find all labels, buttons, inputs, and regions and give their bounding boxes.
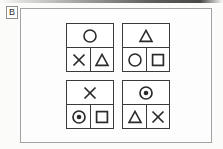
panel-top-right-bottom-cell-1 xyxy=(123,48,146,71)
x-icon xyxy=(82,85,98,101)
panel-letter-badge: B xyxy=(6,6,18,19)
stimulus-panel-grid xyxy=(66,23,170,129)
panel-bottom-left-bottom-row xyxy=(67,105,113,128)
concentric-circle-icon xyxy=(71,109,87,125)
panel-bottom-left-top-cell xyxy=(67,81,113,105)
panel-bottom-left-bottom-cell-2 xyxy=(90,105,113,128)
panel-top-left[interactable] xyxy=(66,23,114,72)
panel-top-right-bottom-row xyxy=(123,48,169,71)
panel-bottom-right[interactable] xyxy=(122,80,170,129)
square-icon xyxy=(94,109,110,125)
panel-top-left-top-cell xyxy=(67,24,113,48)
panel-top-left-bottom-cell-2 xyxy=(90,48,113,71)
square-icon xyxy=(150,52,166,68)
panel-letter-text: B xyxy=(9,8,15,17)
figure-panel-b: B xyxy=(0,0,223,149)
triangle-icon xyxy=(127,109,143,125)
panel-bottom-right-bottom-row xyxy=(123,105,169,128)
triangle-icon xyxy=(94,52,110,68)
triangle-icon xyxy=(138,28,154,44)
panel-top-right[interactable] xyxy=(122,23,170,72)
circle-icon xyxy=(82,28,98,44)
top-edge-scan-line xyxy=(0,0,223,3)
panel-top-right-bottom-cell-2 xyxy=(146,48,169,71)
x-icon xyxy=(71,52,87,68)
panel-bottom-right-bottom-cell-1 xyxy=(123,105,146,128)
panel-bottom-right-bottom-cell-2 xyxy=(146,105,169,128)
panel-top-left-bottom-cell-1 xyxy=(67,48,90,71)
panel-bottom-left-bottom-cell-1 xyxy=(67,105,90,128)
panel-top-left-bottom-row xyxy=(67,48,113,71)
x-icon xyxy=(150,109,166,125)
circle-icon xyxy=(127,52,143,68)
concentric-circle-icon xyxy=(138,85,154,101)
panel-top-right-top-cell xyxy=(123,24,169,48)
panel-bottom-left[interactable] xyxy=(66,80,114,129)
panel-bottom-right-top-cell xyxy=(123,81,169,105)
